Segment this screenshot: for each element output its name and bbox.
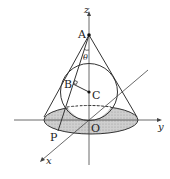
label-O: O [91, 122, 100, 135]
cone-sphere-diagram: z y x A B C O P θ [0, 0, 170, 179]
label-C: C [92, 89, 100, 102]
label-theta: θ [83, 53, 88, 62]
cone-right-generator [89, 35, 137, 117]
segment-BC [73, 84, 89, 92]
label-B: B [64, 78, 72, 91]
point-C [87, 90, 90, 93]
angle-arc [84, 49, 89, 50]
point-A [87, 33, 91, 37]
z-axis-label: z [83, 4, 90, 15]
x-axis-label: x [46, 155, 52, 166]
label-P: P [50, 131, 58, 144]
label-A: A [77, 28, 87, 41]
y-axis-label: y [157, 121, 164, 132]
